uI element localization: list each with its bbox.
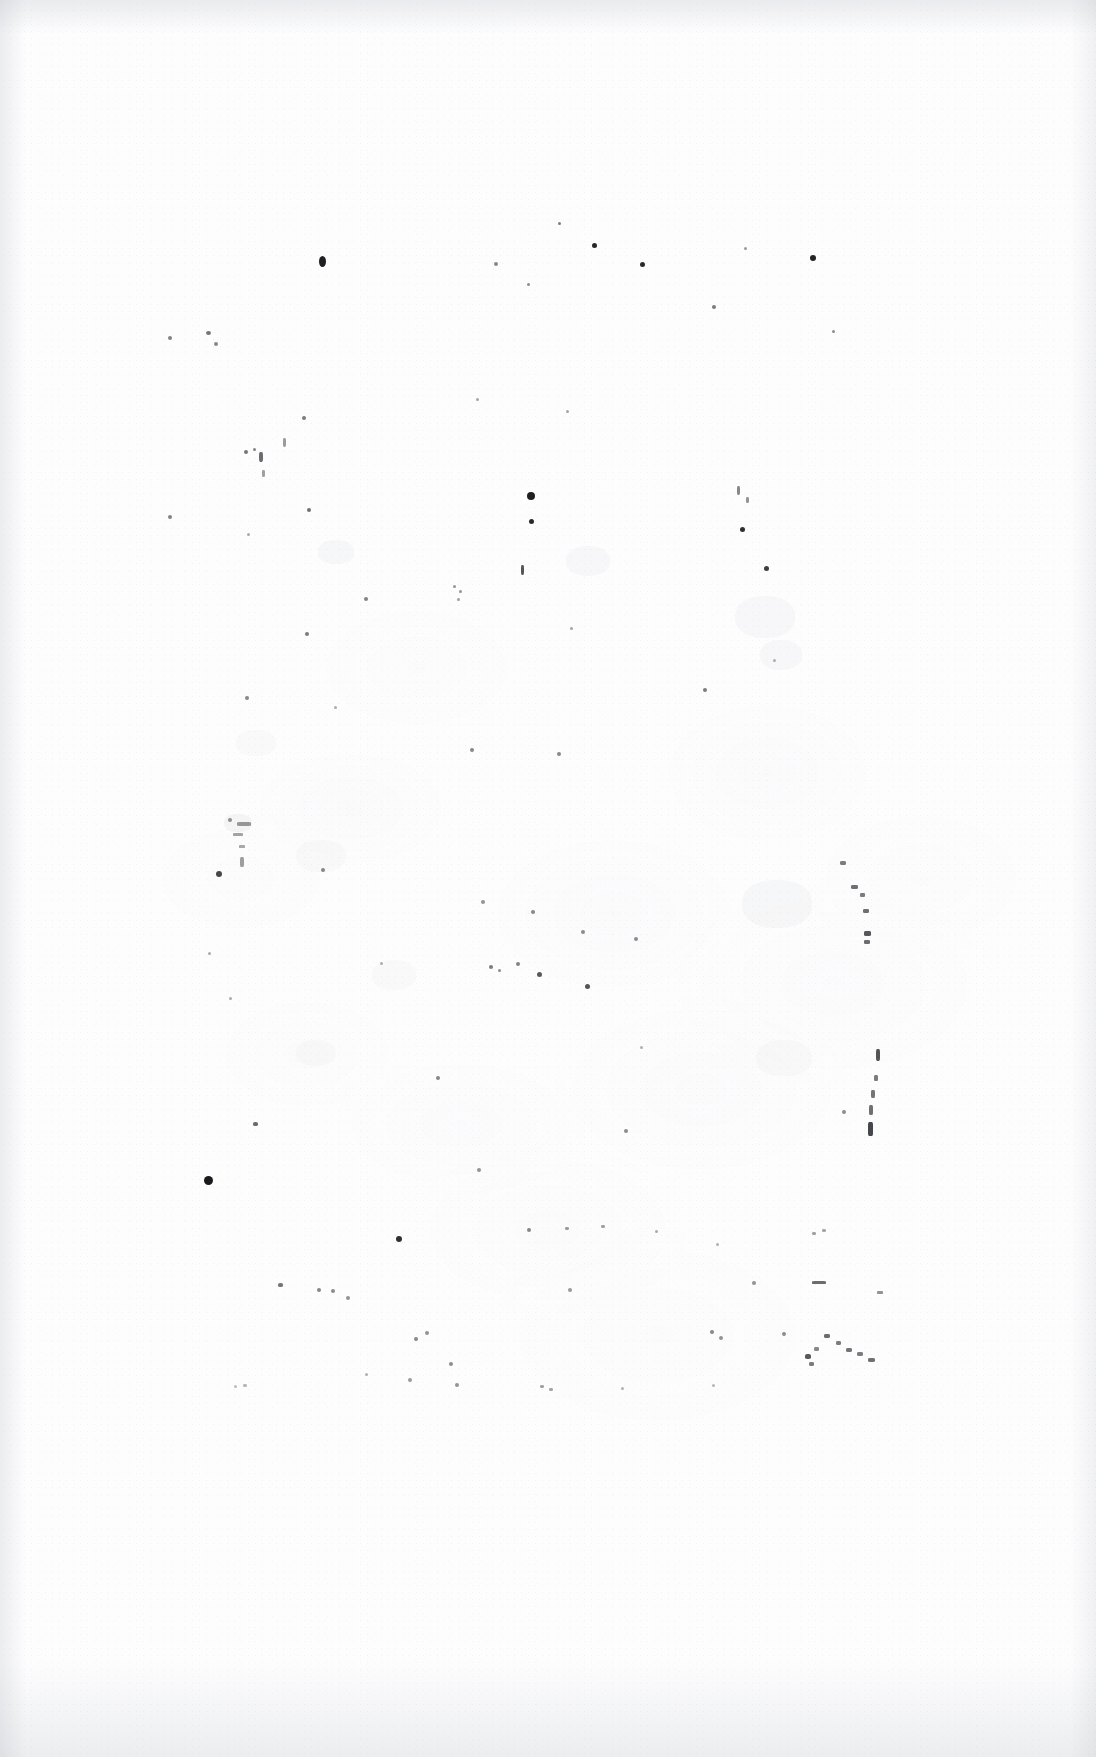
scanned-page: [0, 0, 1096, 1757]
page-text-layer: [0, 0, 1096, 1757]
